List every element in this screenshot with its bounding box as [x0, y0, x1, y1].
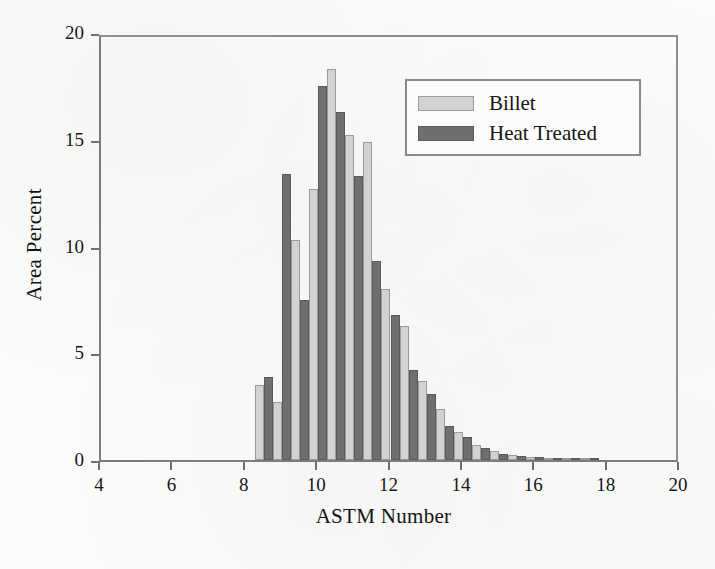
legend-swatch-heat-treated-icon: [418, 126, 474, 141]
bar-heat-treated-16: [535, 457, 544, 460]
bar-heat-treated-15-5: [517, 456, 526, 460]
bar-billet-12-5: [400, 326, 409, 461]
x-tick-label-16: 16: [503, 474, 563, 496]
bar-heat-treated-13-5: [445, 426, 454, 460]
legend-label-billet: Billet: [489, 93, 536, 114]
x-axis-title: ASTM Number: [0, 504, 715, 529]
bar-billet-10: [309, 189, 318, 460]
bar-billet-12: [381, 289, 390, 460]
x-tick-label-8: 8: [214, 474, 274, 496]
bar-billet-13: [418, 381, 427, 460]
bar-billet-15-5: [508, 455, 517, 460]
x-tick-16: [532, 462, 534, 470]
bar-heat-treated-11-5: [372, 261, 381, 460]
x-tick-label-14: 14: [431, 474, 491, 496]
bar-heat-treated-15: [499, 454, 508, 460]
bar-billet-15: [490, 451, 499, 460]
x-tick-label-10: 10: [286, 474, 346, 496]
y-axis-title: Area Percent: [22, 115, 47, 375]
histogram-figure: 468101214161820 05101520 ASTM Number Are…: [0, 0, 715, 569]
x-tick-label-20: 20: [648, 474, 708, 496]
x-tick-10: [315, 462, 317, 470]
bar-heat-treated-11: [354, 176, 363, 460]
bar-billet-11-5: [363, 142, 372, 460]
legend-label-heat-treated: Heat Treated: [489, 123, 597, 144]
bar-billet-13-5: [436, 409, 445, 460]
y-tick-10: [91, 248, 99, 250]
bar-heat-treated-9: [282, 174, 291, 460]
bar-billet-8-5: [255, 385, 264, 460]
x-tick-label-18: 18: [576, 474, 636, 496]
bar-billet-11: [345, 135, 354, 460]
bar-heat-treated-10-5: [336, 112, 345, 460]
legend-swatch-billet-icon: [418, 96, 474, 111]
bar-heat-treated-12: [391, 315, 400, 460]
bar-billet-10-5: [327, 69, 336, 460]
bar-heat-treated-10: [318, 86, 327, 460]
x-tick-label-12: 12: [359, 474, 419, 496]
y-tick-label-0: 0: [24, 449, 84, 471]
bar-heat-treated-13: [427, 394, 436, 460]
legend-item-billet: Billet: [407, 88, 639, 118]
bar-heat-treated-14-5: [481, 448, 490, 460]
x-tick-8: [243, 462, 245, 470]
bar-heat-treated-17: [571, 458, 580, 460]
bar-billet-14: [454, 432, 463, 460]
y-tick-15: [91, 141, 99, 143]
x-tick-14: [460, 462, 462, 470]
y-tick-0: [91, 461, 99, 463]
bar-heat-treated-17-5: [590, 458, 599, 460]
bar-heat-treated-9-5: [300, 300, 309, 460]
bar-billet-16: [526, 457, 535, 460]
bar-billet-17: [562, 458, 571, 460]
x-axis-title-text: ASTM Number: [264, 504, 452, 528]
x-tick-6: [170, 462, 172, 470]
bar-billet-14-5: [472, 445, 481, 460]
legend-box: Billet Heat Treated: [405, 79, 641, 156]
bar-billet-9: [273, 402, 282, 460]
y-tick-5: [91, 354, 99, 356]
bar-billet-16-5: [544, 458, 553, 460]
x-tick-12: [388, 462, 390, 470]
y-tick-label-20: 20: [24, 22, 84, 44]
bar-billet-17-5: [580, 458, 589, 460]
x-tick-label-6: 6: [141, 474, 201, 496]
legend-item-heat-treated: Heat Treated: [407, 118, 639, 148]
bar-billet-9-5: [291, 240, 300, 460]
bar-heat-treated-8-5: [264, 377, 273, 460]
x-tick-20: [677, 462, 679, 470]
bar-heat-treated-12-5: [409, 370, 418, 460]
bar-heat-treated-14: [463, 437, 472, 460]
x-tick-4: [98, 462, 100, 470]
bar-heat-treated-16-5: [553, 458, 562, 460]
y-tick-20: [91, 34, 99, 36]
x-tick-18: [605, 462, 607, 470]
